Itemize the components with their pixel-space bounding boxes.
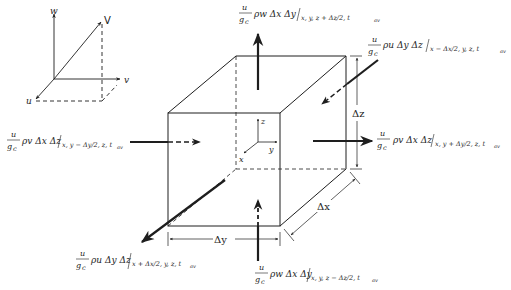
svg-text:x + Δx/2, y, z, t: x + Δx/2, y, z, t [132,260,182,268]
svg-text:g: g [255,275,260,284]
svg-text:x, y, z + Δz/2, t: x, y, z + Δz/2, t [301,14,350,22]
svg-text:c: c [261,278,265,286]
svg-text:g: g [239,15,244,24]
svg-text:x, y − Δy/2, z, t: x, y − Δy/2, z, t [62,141,112,149]
svg-text:x − Δx/2, y, z, t: x − Δx/2, y, z, t [430,45,480,53]
dimension-lines [168,56,362,246]
svg-text:c: c [374,50,378,58]
svg-text:ρw Δx Δy: ρw Δx Δy [253,9,297,19]
svg-text:u: u [380,129,385,138]
svg-text:av: av [190,263,196,269]
w-axis-label: w [50,6,58,16]
back-flux-label: u g c ρu Δy Δz x − Δx/2, y, z, t av [368,35,506,58]
svg-text:av: av [500,48,506,54]
diag-projection-dashed [102,85,117,101]
svg-text:x, y, z − Δz/2, t: x, y, z − Δz/2, t [311,274,360,282]
y-axis-label: y [268,145,274,154]
svg-text:g: g [377,141,382,150]
left-flux-label: u g c ρv Δx Δz x, y − Δy/2, z, t av [7,130,123,153]
svg-text:ρu Δy Δz: ρu Δy Δz [90,255,131,265]
flux-arrows [130,34,378,261]
svg-text:ρv Δx Δz: ρv Δx Δz [392,135,432,145]
svg-text:g: g [368,47,373,56]
front-flux-label: u g c ρu Δy Δz x + Δx/2, y, z, t av [76,249,196,272]
svg-text:av: av [494,143,500,149]
velocity-triad [36,14,120,101]
front-flux-arrow [142,180,225,242]
v-axis-label: v [124,75,129,85]
x-axis-label: x [239,155,244,164]
svg-text:ρw Δx Δy: ρw Δx Δy [269,269,313,279]
svg-text:u: u [11,130,16,139]
z-axis-label: z [260,117,266,126]
right-flux-label: u g c ρv Δx Δz x, y + Δy/2, z, t av [377,129,500,152]
svg-text:x, y + Δy/2, z, t: x, y + Δy/2, z, t [435,140,485,148]
svg-text:av: av [372,277,378,283]
svg-text:c: c [13,145,17,153]
dz-label: Δz [352,108,365,119]
u-axis-label: u [26,96,32,106]
dx-label: Δx [317,201,330,212]
velocity-vector-arrow [54,22,101,79]
x-axis-arrow [244,142,258,153]
svg-text:g: g [7,142,12,151]
svg-text:c: c [82,264,86,272]
bottom-flux-label: u g c ρw Δx Δy x, y, z − Δz/2, t av [255,263,378,286]
top-flux-label: u g c ρw Δx Δy x, y, z + Δz/2, t av [239,3,380,26]
svg-text:c: c [245,18,249,26]
dy-label: Δy [214,234,227,245]
svg-text:av: av [374,17,380,23]
back-flux-arrow-solid [347,60,378,84]
svg-text:u: u [259,263,264,272]
svg-text:ρu Δy Δz: ρu Δy Δz [382,40,423,50]
svg-text:u: u [80,249,85,258]
velocity-vector-label: V [104,15,111,26]
back-flux-arrow-dashed [322,84,347,104]
svg-text:u: u [242,3,247,12]
svg-text:av: av [117,144,123,150]
svg-text:g: g [76,261,81,270]
control-volume-diagram: w v u V z y x [0,0,511,290]
u-axis-arrow [36,79,54,99]
svg-text:c: c [383,144,387,152]
svg-text:u: u [372,35,377,44]
svg-text:ρv Δx Δz: ρv Δx Δz [21,136,61,146]
